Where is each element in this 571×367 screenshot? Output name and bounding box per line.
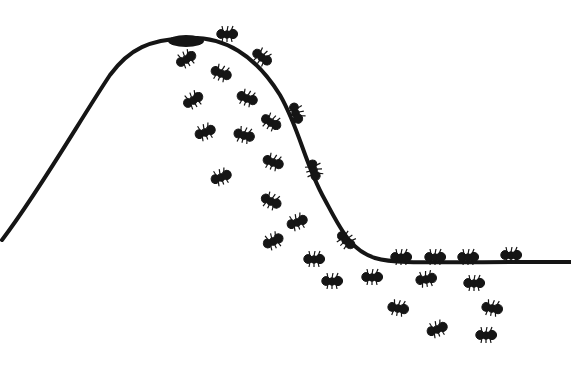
falling-ant-icon — [362, 269, 383, 285]
falling-ant-icon — [235, 87, 260, 109]
peak-blob — [168, 35, 204, 47]
ant-icon — [217, 26, 238, 42]
falling-ant-icon — [481, 298, 504, 317]
falling-ant-icon — [180, 88, 206, 112]
falling-ant-icon — [476, 327, 497, 343]
falling-ant-icon — [209, 62, 234, 84]
ant-icon — [333, 227, 359, 253]
falling-ant-icon — [261, 151, 286, 173]
falling-ant-icon — [322, 273, 343, 289]
falling-ant-icon — [415, 269, 438, 288]
falling-ant-icon — [260, 229, 286, 252]
falling-ant-icon — [258, 110, 284, 134]
falling-ants-group — [173, 47, 504, 343]
falling-ant-icon — [232, 125, 256, 146]
falling-ant-icon — [193, 121, 218, 143]
ants-on-curve-group — [217, 26, 522, 265]
falling-ant-icon — [387, 298, 410, 317]
falling-ant-icon — [425, 318, 450, 340]
ant-curve-illustration — [0, 0, 571, 367]
falling-ant-icon — [173, 47, 199, 71]
falling-ant-icon — [285, 211, 310, 233]
bell-curve-line — [2, 38, 571, 262]
falling-ant-icon — [209, 166, 234, 188]
falling-ant-icon — [464, 275, 485, 291]
falling-ant-icon — [258, 189, 284, 212]
falling-ant-icon — [304, 251, 325, 267]
ant-icon — [249, 45, 275, 70]
